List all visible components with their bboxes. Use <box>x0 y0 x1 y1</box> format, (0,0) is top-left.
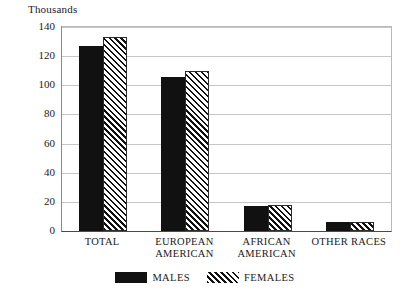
bar-females <box>350 222 374 231</box>
bar-group <box>227 27 309 231</box>
legend-label: MALES <box>152 272 190 283</box>
y-tick-label: 100 <box>15 79 55 90</box>
y-tick-label: 140 <box>15 21 55 32</box>
y-tick-label: 60 <box>15 137 55 148</box>
y-tick-label: 20 <box>15 195 55 206</box>
y-tick-label: 40 <box>15 166 55 177</box>
y-axis-unit-label: Thousands <box>28 3 77 15</box>
category-label: OTHER RACES <box>294 236 404 248</box>
plot-area <box>61 26 392 232</box>
legend-entry: MALES <box>115 272 190 283</box>
bar-group <box>144 27 226 231</box>
bar-chart-figure: Thousands 020406080100120140 TOTALEUROPE… <box>0 0 410 297</box>
bar-group <box>62 27 144 231</box>
solid-black-swatch <box>115 272 147 283</box>
y-tick-label: 80 <box>15 108 55 119</box>
bar-females <box>103 37 127 231</box>
bar-males <box>161 77 185 231</box>
bar-females <box>268 205 292 231</box>
bar-males <box>326 222 350 231</box>
bar-group <box>309 27 391 231</box>
legend-label: FEMALES <box>244 272 295 283</box>
bar-males <box>244 206 268 231</box>
diagonal-hatch-swatch <box>207 272 239 283</box>
y-tick-label: 0 <box>15 225 55 236</box>
chart-legend: MALESFEMALES <box>0 272 410 283</box>
bar-females <box>185 71 209 231</box>
y-tick-label: 120 <box>15 50 55 61</box>
legend-entry: FEMALES <box>207 272 295 283</box>
bar-males <box>79 46 103 231</box>
